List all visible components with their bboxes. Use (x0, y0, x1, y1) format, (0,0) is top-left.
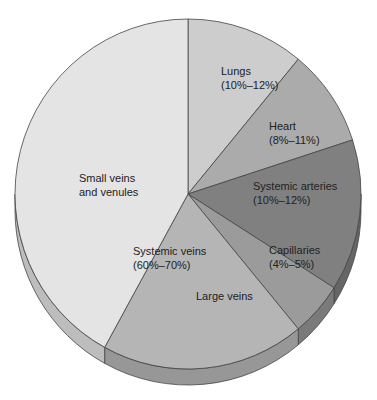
slice-label-line: Heart (269, 120, 296, 132)
slice-label-line: Lungs (221, 65, 251, 77)
slice-label-line: Large veins (196, 290, 253, 302)
slice-label-line: Systemic arteries (253, 180, 338, 192)
slice-label-large-veins: Large veins (196, 290, 253, 302)
slice-label-line: Small veins (79, 172, 136, 184)
slice-label-line: (4%–5%) (269, 258, 314, 270)
group-label-line: Systemic veins (133, 245, 207, 257)
slice-label-line: (8%–11%) (269, 134, 320, 146)
group-label-line: (60%–70%) (133, 259, 190, 271)
slice-label-line: Capillaries (269, 244, 321, 256)
pie-chart: Lungs(10%–12%)Heart(8%–11%)Systemic arte… (0, 0, 377, 400)
slice-label-line: (10%–12%) (253, 194, 310, 206)
slice-label-line: and venules (79, 186, 139, 198)
slice-label-line: (10%–12%) (221, 79, 278, 91)
